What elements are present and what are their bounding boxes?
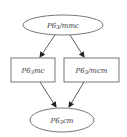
edge-top-to-right [70,35,84,57]
node-p63-mmc: P63/mmc [23,15,103,35]
node-label: P63/mcm [75,67,108,76]
edge-top-to-left [40,35,55,57]
node-label: P63/mmc [46,22,79,31]
edge-left-to-bottom [40,82,56,107]
graph-canvas: P63/mmc P63mc P63/mcm P63cm [0,0,127,137]
node-p63cm: P63cm [30,108,94,132]
node-p63-mcm: P63/mcm [64,58,119,82]
edge-right-to-bottom [69,82,84,107]
node-p63mc: P63mc [11,58,55,82]
